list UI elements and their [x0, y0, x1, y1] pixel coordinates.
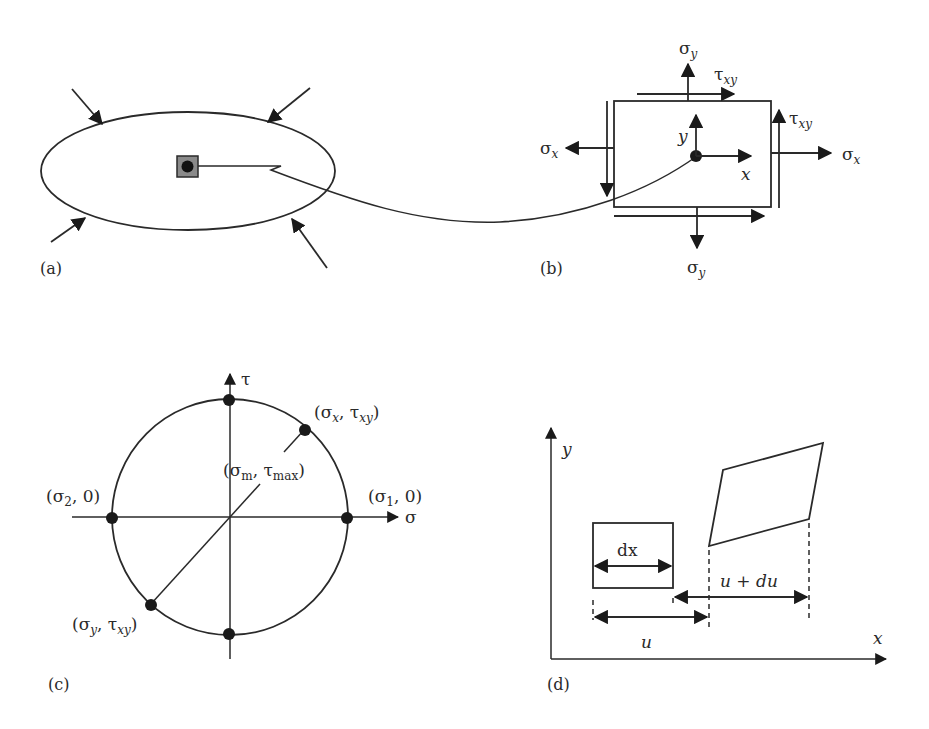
point-sigma2-icon [106, 512, 118, 524]
d-x-label: x [873, 628, 883, 648]
load-arrow-bottom-right [292, 219, 327, 268]
tau-xy-top-label: τxy [714, 64, 737, 87]
stress-strain-figure: (a) σy τxy τxy σx σx σy y x (b) [0, 0, 929, 729]
sigma-x-left-label: σx [540, 138, 559, 161]
load-arrow-bottom-left [51, 218, 85, 242]
panel-a-loaded-body: (a) [40, 88, 697, 278]
u-du-label: u + du [720, 571, 778, 591]
point-sigma1-icon [341, 512, 353, 524]
point-tau-min-icon [223, 628, 235, 640]
point-sx-txy-icon [299, 424, 311, 436]
local-x-label: x [741, 164, 751, 184]
leader-line [198, 156, 697, 222]
deformed-element [709, 443, 823, 546]
point-sy-txy-icon [145, 599, 157, 611]
diameter-line [151, 484, 260, 604]
tau-axis-label: τ [241, 369, 250, 389]
sigma-axis-label: σ [405, 507, 417, 527]
label-sy-txy: (σy, τxy) [72, 614, 137, 637]
d-y-label: y [561, 439, 572, 459]
panel-b-label: (b) [540, 259, 563, 278]
label-sm-tmax: (σm, τmax) [223, 460, 305, 483]
panel-b-stress-element: σy τxy τxy σx σx σy y x (b) [540, 38, 861, 280]
dx-label: dx [617, 540, 638, 560]
point-tau-max-icon [223, 394, 235, 406]
tau-xy-right-label: τxy [789, 108, 812, 131]
panel-c-mohrs-circle: τ σ (σx, τxy) (σm, τmax) (σ2, 0) (σ1, 0)… [46, 369, 422, 694]
sigma-y-bottom-label: σy [687, 257, 706, 280]
panel-c-label: (c) [48, 675, 69, 694]
load-arrow-top-left [72, 89, 102, 124]
sigma-x-right-label: σx [842, 144, 861, 167]
sigma-y-top-label: σy [679, 38, 698, 61]
panel-d-strain-deformation: y x dx u u + du (d) [547, 428, 886, 694]
load-arrow-top-right [268, 88, 310, 122]
panel-d-label: (d) [547, 675, 570, 694]
local-y-label: y [677, 126, 688, 146]
u-label: u [641, 632, 652, 652]
label-s1: (σ1, 0) [368, 486, 422, 509]
panel-a-label: (a) [40, 259, 62, 278]
label-s2: (σ2, 0) [46, 486, 100, 509]
label-sx-txy: (σx, τxy) [314, 402, 379, 425]
element-point-icon [182, 161, 194, 173]
